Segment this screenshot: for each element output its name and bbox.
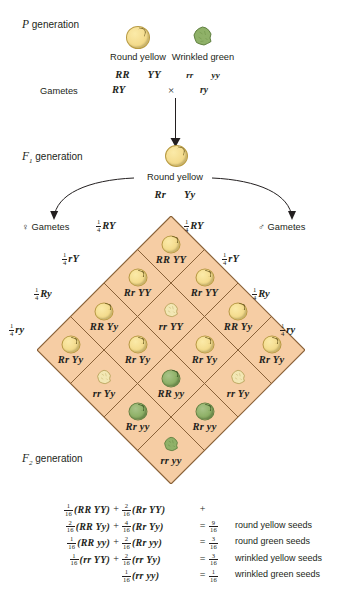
punnett-cell-genotype: rr Yy xyxy=(211,387,265,398)
punnett-cell[interactable]: Rr Yy xyxy=(245,336,299,365)
fraction: 116 xyxy=(209,569,218,583)
punnett-cell-genotype: Rr Yy xyxy=(178,354,232,365)
seed-round-yellow xyxy=(128,336,147,354)
genotype-color-alleles: YY xyxy=(173,253,186,264)
punnett-cell-genotype: RR Yy xyxy=(211,320,265,331)
gamete-left-2: 14Ry xyxy=(34,287,52,301)
punnett-cell[interactable]: rr Yy xyxy=(211,369,265,398)
punnett-cell-seed xyxy=(144,302,198,319)
genotype-color-alleles: YY xyxy=(205,287,218,298)
fraction-quarter: 14 xyxy=(280,323,285,337)
punnett-cell-genotype: rr YY xyxy=(144,320,198,331)
fraction: 916 xyxy=(209,520,218,534)
parent-right-genotype: rr yy xyxy=(160,64,246,82)
seed-round-yellow xyxy=(195,269,214,287)
punnett-cell-seed xyxy=(144,436,198,453)
summary-term-2: 116(rr yy) xyxy=(122,569,196,583)
punnett-cell-seed xyxy=(245,336,299,353)
punnett-cell[interactable]: Rr Yy xyxy=(178,336,232,365)
summary-equals: = xyxy=(196,536,209,547)
punnett-cell-genotype: rr yy xyxy=(144,454,198,465)
genotype-color-alleles: Yy xyxy=(104,387,115,398)
seed-notch-icon xyxy=(170,236,178,244)
f2-letter: F2 xyxy=(22,452,33,464)
summary-equals: + xyxy=(196,503,209,514)
figure-canvas: P generation Round yellow RR YY Wrinkled… xyxy=(0,0,343,592)
summary-result-fraction: 316 xyxy=(209,536,235,550)
genotype-color-alleles: YY xyxy=(138,287,151,298)
f1-gamete-branch-curves xyxy=(50,170,296,220)
gamete-right-2: 14Ry xyxy=(252,287,270,301)
punnett-cell[interactable]: RR yy xyxy=(144,369,198,398)
gamete-right-2-text: Ry xyxy=(258,288,269,299)
seed-round-green xyxy=(162,369,181,387)
fraction: 416 xyxy=(122,520,131,534)
genotype-shape-alleles: RR xyxy=(90,320,104,331)
genotype-color-alleles: Yy xyxy=(139,354,150,365)
fraction: 116 xyxy=(67,536,76,550)
punnett-cell-seed xyxy=(211,369,265,386)
punnett-cell-genotype: rr Yy xyxy=(77,387,131,398)
genotype-shape-alleles: RR xyxy=(158,387,172,398)
genotype-shape-alleles: Rr xyxy=(124,287,136,298)
gamete-left-3: 14ry xyxy=(9,323,24,337)
punnett-cell[interactable]: RR Yy xyxy=(77,302,131,331)
punnett-cell[interactable]: rr YY xyxy=(144,302,198,331)
seed-notch-icon xyxy=(204,270,212,278)
summary-result-label: wrinkled green seeds xyxy=(235,569,320,579)
seed-notch-icon xyxy=(70,337,78,345)
seed-notch-icon xyxy=(204,337,212,345)
punnett-cell[interactable]: Rr Yy xyxy=(111,336,165,365)
summary-term-1: 116(rr YY) xyxy=(36,553,110,567)
summary-operator: + xyxy=(110,536,122,547)
genotype-color-alleles: Yy xyxy=(238,387,249,398)
p-generation-text: generation xyxy=(29,19,79,30)
p-generation-label: P generation xyxy=(22,18,79,30)
summary-operator: + xyxy=(110,520,122,531)
fraction: 216 xyxy=(122,503,131,517)
punnett-cell-seed xyxy=(144,235,198,252)
summary-term-1: 116(RR yy) xyxy=(36,536,110,550)
seed-round-yellow xyxy=(95,302,114,320)
seed-round-yellow xyxy=(229,302,248,320)
summary-row: 116(RR yy)+216(Rr yy)=316round green see… xyxy=(36,536,326,553)
punnett-cell[interactable]: Rr yy xyxy=(111,403,165,432)
punnett-cell-seed xyxy=(111,269,165,286)
genotype-shape-alleles: Rr xyxy=(192,354,204,365)
p-gamete-left: RY xyxy=(112,84,125,95)
summary-term-2: 216(rr Yy) xyxy=(122,553,196,567)
summary-row: 216(RR Yy)+416(Rr Yy)=916round yellow se… xyxy=(36,520,326,537)
genotype-shape-alleles: Rr xyxy=(191,287,203,298)
fraction-quarter: 14 xyxy=(252,287,257,301)
seed-notch-icon xyxy=(137,404,145,412)
genotype-color-alleles: Yy xyxy=(241,320,252,331)
seed-round-yellow xyxy=(162,235,181,253)
punnett-cell[interactable]: Rr yy xyxy=(178,403,232,432)
genotype-color-alleles: yy xyxy=(207,421,217,432)
gamete-right-3: 14ry xyxy=(280,323,295,337)
punnett-cell[interactable]: rr yy xyxy=(144,436,198,465)
punnett-cell[interactable]: Rr YY xyxy=(178,269,232,298)
summary-equals: = xyxy=(196,553,209,564)
fraction: 216 xyxy=(122,553,131,567)
p-gametes-label: Gametes xyxy=(40,86,78,96)
seed-round-yellow xyxy=(61,336,80,354)
punnett-cell-seed xyxy=(144,369,198,386)
gamete-top-right: 14RY xyxy=(184,219,204,233)
punnett-cell[interactable]: rr Yy xyxy=(77,369,131,398)
punnett-cell[interactable]: RR YY xyxy=(144,235,198,264)
fraction: 216 xyxy=(122,536,131,550)
f1-seed-round-yellow xyxy=(165,145,188,167)
seed-notch-icon xyxy=(204,404,212,412)
parent-right-genotype-y: yy xyxy=(211,70,219,80)
summary-term-1: 116(RR YY) xyxy=(36,503,110,517)
genotype-shape-alleles: rr xyxy=(160,454,169,465)
punnett-cell[interactable]: Rr Yy xyxy=(44,336,98,365)
punnett-cell-seed xyxy=(211,302,265,319)
punnett-cell-genotype: Rr YY xyxy=(111,287,165,298)
fraction: 216 xyxy=(66,520,75,534)
punnett-cell[interactable]: Rr YY xyxy=(111,269,165,298)
punnett-cell-genotype: Rr Yy xyxy=(245,354,299,365)
punnett-cell[interactable]: RR Yy xyxy=(211,302,265,331)
punnett-cell-seed xyxy=(77,302,131,319)
